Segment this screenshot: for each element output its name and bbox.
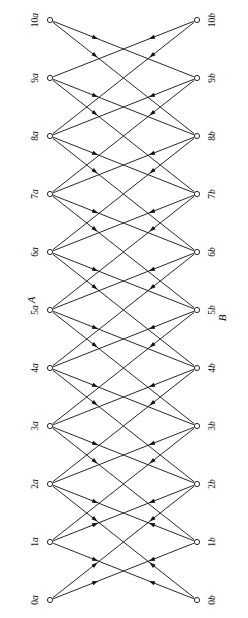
- graph-node-2a[interactable]: [47, 481, 52, 486]
- node-label-6a: 6a: [30, 247, 40, 257]
- node-label-5b: 5b: [207, 305, 217, 315]
- node-label-letter: b: [207, 305, 217, 310]
- graph-node-9a[interactable]: [47, 75, 52, 80]
- node-label-2b: 2b: [207, 479, 217, 489]
- node-label-5a: 5a: [30, 305, 40, 315]
- node-label-letter: b: [207, 421, 217, 426]
- node-label-number: 4: [207, 368, 217, 373]
- graph-node-8a[interactable]: [47, 133, 52, 138]
- node-label-letter: a: [30, 421, 40, 426]
- node-label-number: 0: [207, 600, 217, 605]
- node-label-8a: 8a: [30, 131, 40, 141]
- edge-arrowhead: [149, 441, 156, 445]
- node-label-number: 1: [30, 542, 40, 547]
- edge-arrowhead: [92, 209, 99, 213]
- node-label-number: 9: [207, 78, 217, 83]
- graph-node-3b[interactable]: [194, 423, 199, 428]
- node-label-9b: 9b: [207, 73, 217, 83]
- node-label-0a: 0a: [30, 595, 40, 605]
- column-label-b: B: [216, 315, 228, 322]
- node-label-letter: b: [207, 479, 217, 484]
- node-label-letter: a: [30, 13, 40, 18]
- edge-layer: [53, 21, 195, 599]
- edge-arrowhead: [149, 383, 156, 387]
- graph-node-8b[interactable]: [194, 133, 199, 138]
- edge-arrowhead: [149, 325, 156, 329]
- edge-arrowhead: [92, 523, 99, 527]
- edge-arrowhead: [92, 93, 99, 97]
- edge-arrowhead: [92, 499, 99, 503]
- node-label-number: 7: [30, 194, 40, 199]
- graph-node-6b[interactable]: [194, 249, 199, 254]
- node-label-number: 6: [30, 252, 40, 257]
- graph-node-6a[interactable]: [47, 249, 52, 254]
- graph-node-1b[interactable]: [194, 539, 199, 544]
- node-label-number: 8: [207, 136, 217, 141]
- graph-node-3a[interactable]: [47, 423, 52, 428]
- node-label-letter: b: [207, 189, 217, 194]
- node-label-letter: a: [30, 305, 40, 310]
- edge-arrowhead: [92, 557, 99, 561]
- node-label-number: 5: [30, 310, 40, 315]
- node-label-number: 3: [30, 426, 40, 431]
- node-label-7b: 7b: [207, 189, 217, 199]
- graph-node-9b[interactable]: [194, 75, 199, 80]
- graph-node-5a[interactable]: [47, 307, 52, 312]
- edge-arrowhead: [149, 93, 156, 97]
- node-label-number: 2: [207, 484, 217, 489]
- graph-node-7b[interactable]: [194, 191, 199, 196]
- graph-node-0b[interactable]: [194, 597, 199, 602]
- node-label-3b: 3b: [207, 421, 217, 431]
- edge-arrowhead: [92, 581, 99, 585]
- edge-arrowhead: [149, 209, 156, 213]
- node-label-10b: 10b: [207, 13, 217, 27]
- node-label-letter: b: [207, 595, 217, 600]
- edge-arrowhead: [92, 441, 99, 445]
- node-label-7a: 7a: [30, 189, 40, 199]
- graph-node-5b[interactable]: [194, 307, 199, 312]
- node-label-letter: a: [30, 73, 40, 78]
- graph-node-4a[interactable]: [47, 365, 52, 370]
- node-label-number: 3: [207, 426, 217, 431]
- node-label-1b: 1b: [207, 537, 217, 547]
- edge-arrowhead: [92, 383, 99, 387]
- node-label-letter: b: [207, 363, 217, 368]
- graph-node-4b[interactable]: [194, 365, 199, 370]
- edge-arrowhead: [149, 35, 156, 39]
- node-label-letter: a: [30, 595, 40, 600]
- node-label-1a: 1a: [30, 537, 40, 547]
- edge-arrowhead: [92, 325, 99, 329]
- graph-node-1a[interactable]: [47, 539, 52, 544]
- node-label-letter: a: [30, 131, 40, 136]
- node-label-4a: 4a: [30, 363, 40, 373]
- node-label-number: 6: [207, 252, 217, 257]
- node-label-0b: 0b: [207, 595, 217, 605]
- node-label-6b: 6b: [207, 247, 217, 257]
- node-label-letter: b: [207, 537, 217, 542]
- edge-arrowhead: [149, 523, 156, 527]
- graph-node-7a[interactable]: [47, 191, 52, 196]
- node-label-letter: a: [30, 537, 40, 542]
- node-label-2a: 2a: [30, 479, 40, 489]
- node-label-number: 10: [30, 18, 40, 28]
- edge-arrowhead: [149, 499, 156, 503]
- node-label-4b: 4b: [207, 363, 217, 373]
- node-label-letter: a: [30, 363, 40, 368]
- node-label-letter: b: [207, 73, 217, 78]
- graph-node-2b[interactable]: [194, 481, 199, 486]
- graph-node-0a[interactable]: [47, 597, 52, 602]
- graph-node-10a[interactable]: [47, 17, 52, 22]
- node-label-number: 1: [207, 542, 217, 547]
- graph-node-10b[interactable]: [194, 17, 199, 22]
- node-label-number: 2: [30, 484, 40, 489]
- edge-arrowhead: [149, 557, 156, 561]
- node-label-letter: a: [30, 479, 40, 484]
- edge-arrowhead: [92, 151, 99, 155]
- node-label-letter: a: [30, 247, 40, 252]
- node-label-letter: b: [207, 131, 217, 136]
- node-label-number: 4: [30, 368, 40, 373]
- node-label-letter: b: [207, 247, 217, 252]
- node-label-letter: a: [30, 189, 40, 194]
- edge-arrowhead: [92, 267, 99, 271]
- edge-arrowhead: [92, 35, 99, 39]
